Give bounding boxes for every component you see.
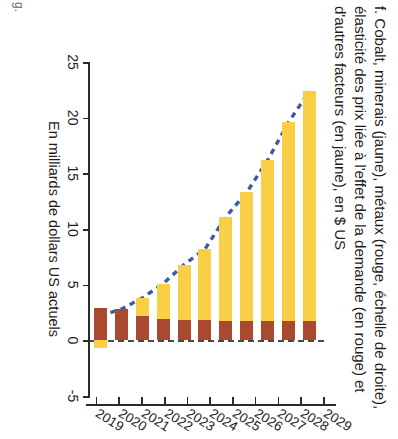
category-axis-tick: [323, 397, 325, 404]
bar-segment-red: [136, 316, 149, 340]
bar-segment-yellow: [219, 217, 232, 322]
category-axis-tick: [141, 397, 143, 404]
bar-segment-yellow: [178, 265, 191, 321]
bar-row: [94, 62, 107, 396]
bar-segment-yellow: [157, 284, 170, 320]
figure-caption: f. Cobalt, minerais (jaune), métaux (rou…: [331, 6, 390, 430]
bar-segment-yellow: [94, 340, 107, 348]
bar-row: [136, 62, 149, 396]
rotated-figure-wrapper: f. Cobalt, minerais (jaune), métaux (rou…: [0, 0, 398, 439]
bar-segment-yellow: [136, 298, 149, 316]
bar-segment-yellow: [282, 122, 295, 321]
value-axis-tick: [83, 62, 90, 64]
category-axis-tick: [278, 397, 280, 404]
value-axis: 2520151050-5: [88, 62, 90, 396]
value-axis-tick: [83, 229, 90, 231]
bar-row: [303, 62, 316, 396]
bar-row: [219, 62, 232, 396]
bar-segment-red: [178, 320, 191, 340]
value-axis-title: En milliards de dollars US actuels: [46, 62, 62, 396]
category-axis: 2019202020212022202320242025202620272028…: [86, 404, 336, 406]
value-axis-tick: [83, 396, 90, 398]
plot-area: [90, 62, 320, 396]
bar-row: [115, 62, 128, 396]
category-axis-tick: [209, 397, 211, 404]
bar-segment-red: [94, 308, 107, 340]
value-axis-tick: [83, 340, 90, 342]
bar-segment-red: [157, 319, 170, 340]
category-axis-tick: [187, 397, 189, 404]
bar-segment-red: [240, 321, 253, 340]
bar-segment-yellow: [240, 192, 253, 321]
bar-segment-red: [219, 321, 232, 340]
bar-segment-red: [303, 321, 316, 340]
category-axis-tick: [232, 397, 234, 404]
value-axis-tick: [83, 118, 90, 120]
value-axis-tick-label: -5: [65, 390, 81, 402]
bar-segment-yellow: [261, 160, 274, 321]
value-axis-tick-label: 5: [65, 281, 81, 289]
value-axis-tick-label: 25: [65, 54, 81, 70]
value-axis-tick-label: 10: [65, 221, 81, 237]
bar-row: [261, 62, 274, 396]
category-axis-tick: [164, 397, 166, 404]
bar-row: [199, 62, 212, 396]
bar-row: [282, 62, 295, 396]
value-axis-tick-label: 0: [65, 336, 81, 344]
value-axis-tick-label: 15: [65, 166, 81, 182]
bar-segment-yellow: [199, 249, 212, 320]
bar-segment-red: [261, 321, 274, 340]
category-axis-tick: [300, 397, 302, 404]
bar-row: [157, 62, 170, 396]
bars-container: [90, 62, 320, 396]
value-axis-tick: [83, 173, 90, 175]
bar-row: [240, 62, 253, 396]
category-axis-tick: [119, 397, 121, 404]
bar-segment-red: [115, 309, 128, 340]
category-axis-tick: [96, 397, 98, 404]
bar-segment-red: [199, 320, 212, 340]
bar-segment-red: [282, 321, 295, 340]
bar-segment-yellow: [303, 91, 316, 321]
bar-row: [178, 62, 191, 396]
chart-figure: f. Cobalt, minerais (jaune), métaux (rou…: [0, 0, 398, 439]
category-axis-tick: [255, 397, 257, 404]
value-axis-tick: [83, 285, 90, 287]
corner-mark: g.: [12, 2, 26, 12]
value-axis-tick-label: 20: [65, 110, 81, 126]
